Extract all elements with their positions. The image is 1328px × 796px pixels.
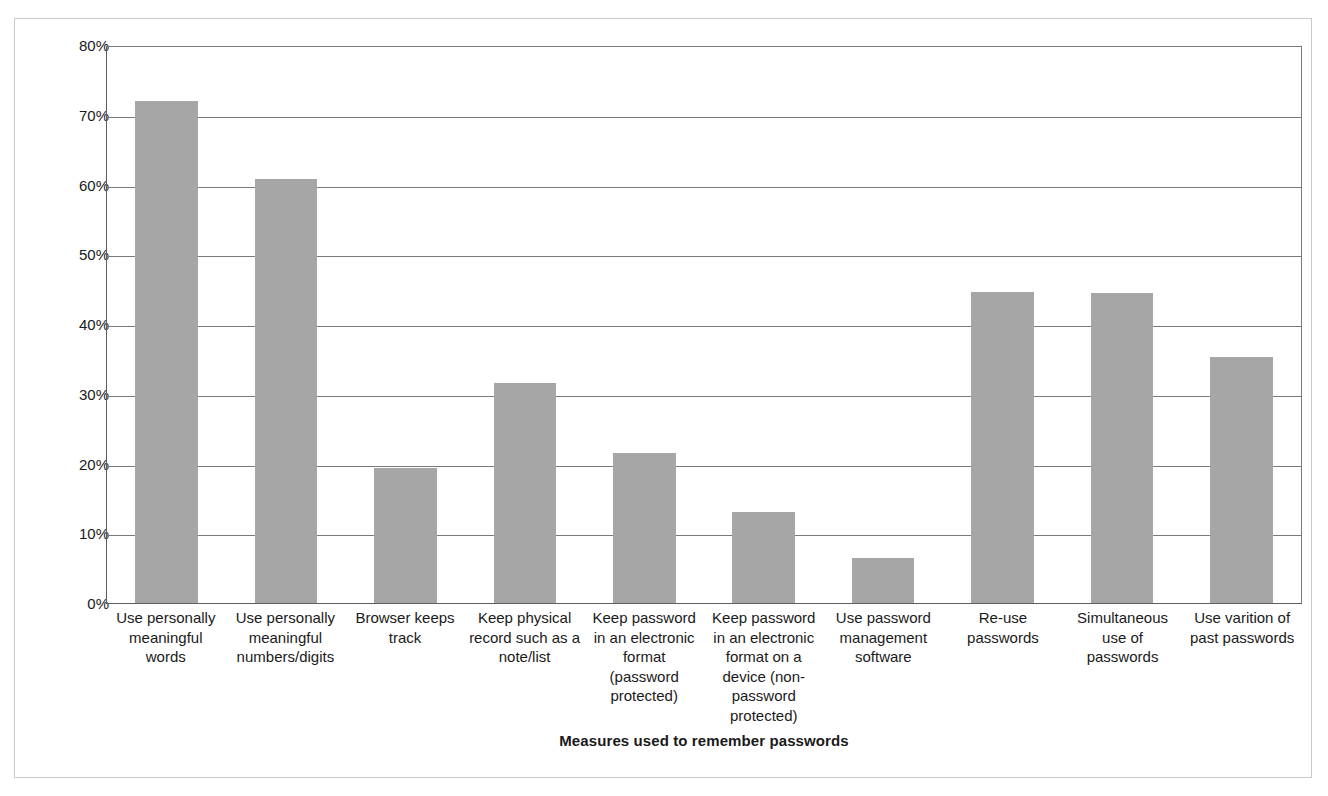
x-tick-label: Keep physical record such as a note/list [465,608,585,667]
bars-layer [107,47,1301,603]
bar-slot [943,47,1062,603]
bar-slot [585,47,704,603]
bar[interactable] [1210,357,1273,603]
x-tick-label: Use personally meaningful words [106,608,226,667]
chart-figure: Percentage 80%70%60%50%40%30%20%10%0% Us… [14,18,1312,778]
y-tick-label: 50% [51,247,109,263]
bar[interactable] [374,468,437,603]
bar-slot [107,47,226,603]
y-tick-label: 30% [51,387,109,403]
y-tick-label: 70% [51,108,109,124]
bar[interactable] [255,179,318,603]
x-tick-label: Simultaneous use of passwords [1063,608,1183,667]
bar-slot [465,47,584,603]
bar-slot [346,47,465,603]
x-tick-label: Use varition of past passwords [1182,608,1302,647]
bar[interactable] [135,101,198,603]
x-tick-label: Keep password in an electronic format on… [704,608,824,725]
bar-slot [1182,47,1301,603]
bar-slot [823,47,942,603]
x-tick-label: Keep password in an electronic format (p… [584,608,704,706]
bar[interactable] [971,292,1034,603]
y-tick-label: 60% [51,178,109,194]
bar[interactable] [613,453,676,603]
plot-area [106,46,1302,604]
x-tick-label: Browser keeps track [345,608,465,647]
bar[interactable] [732,512,795,603]
y-tick-label: 80% [51,38,109,54]
x-axis-tick-labels: Use personally meaningful wordsUse perso… [106,608,1302,725]
bar-slot [1062,47,1181,603]
bar-slot [226,47,345,603]
x-tick-label: Use password management software [824,608,944,667]
x-tick-label: Re-use passwords [943,608,1063,647]
y-axis-tick-labels: 80%70%60%50%40%30%20%10%0% [51,46,109,606]
y-tick-label: 10% [51,526,109,542]
y-tick-label: 40% [51,317,109,333]
bar[interactable] [494,383,557,603]
y-tick-label: 20% [51,457,109,473]
bar[interactable] [1091,293,1154,603]
x-axis-title: Measures used to remember passwords [106,732,1302,749]
bar-slot [704,47,823,603]
y-tick-label: 0% [51,596,109,612]
x-tick-label: Use personally meaningful numbers/digits [226,608,346,667]
bar[interactable] [852,558,915,603]
